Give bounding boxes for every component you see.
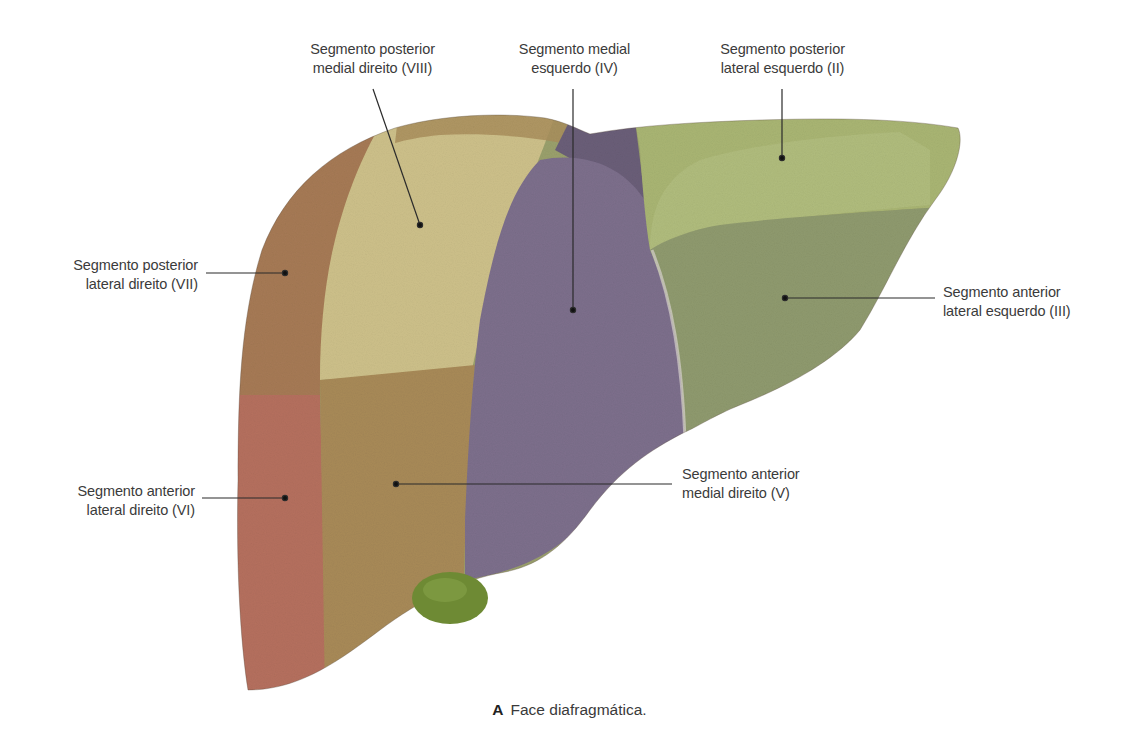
label-line: lateral esquerdo (II) — [700, 59, 865, 78]
segment-iii-region — [650, 205, 970, 700]
label-line: lateral direito (VII) — [30, 275, 198, 294]
label-segment-viii: Segmento posterior medial direito (VIII) — [290, 40, 455, 78]
label-line: medial direito (VIII) — [290, 59, 455, 78]
label-line: Segmento posterior — [30, 256, 198, 275]
label-segment-ii: Segmento posterior lateral esquerdo (II) — [700, 40, 865, 78]
label-line: Segmento anterior — [943, 283, 1123, 302]
label-segment-vi: Segmento anterior lateral direito (VI) — [30, 482, 195, 520]
label-segment-v: Segmento anterior medial direito (V) — [682, 465, 842, 503]
label-line: Segmento anterior — [682, 465, 842, 484]
label-line: lateral direito (VI) — [30, 501, 195, 520]
label-segment-iv: Segmento medial esquerdo (IV) — [502, 40, 647, 78]
label-line: esquerdo (IV) — [502, 59, 647, 78]
label-line: medial direito (V) — [682, 484, 842, 503]
segment-vi-region — [230, 395, 330, 700]
segment-v-region — [320, 365, 475, 700]
label-line: Segmento medial — [502, 40, 647, 59]
label-line: Segmento posterior — [290, 40, 455, 59]
caption-letter: A — [492, 701, 503, 718]
liver-segments-figure: Segmento posterior medial direito (VIII)… — [0, 0, 1139, 741]
liver-illustration — [0, 0, 1139, 741]
label-line: Segmento anterior — [30, 482, 195, 501]
label-segment-vii: Segmento posterior lateral direito (VII) — [30, 256, 198, 294]
figure-caption: AFace diafragmática. — [0, 701, 1139, 719]
label-line: Segmento posterior — [700, 40, 865, 59]
label-segment-iii: Segmento anterior lateral esquerdo (III) — [943, 283, 1123, 321]
label-line: lateral esquerdo (III) — [943, 302, 1123, 321]
caption-text: Face diafragmática. — [511, 701, 647, 718]
